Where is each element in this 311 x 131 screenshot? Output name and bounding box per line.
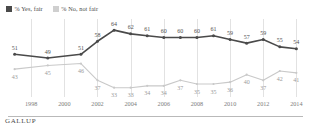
- legend-swatch-yes-fair: [6, 6, 12, 12]
- x-tick-2000: 2000: [58, 100, 70, 107]
- data-point: [295, 47, 298, 50]
- data-point: [195, 36, 198, 39]
- value-label: 58: [94, 32, 100, 38]
- value-label: 60: [161, 28, 167, 34]
- x-tick-2008: 2008: [191, 100, 203, 107]
- data-point: [146, 34, 149, 37]
- value-label: 36: [227, 87, 233, 93]
- gallup-line-chart: % Yes, fair % No, not fair 5149515864626…: [0, 0, 311, 131]
- x-tick-2006: 2006: [158, 100, 170, 107]
- data-point: [262, 79, 264, 81]
- legend-label-yes-fair: % Yes, fair: [15, 5, 43, 12]
- data-point: [96, 40, 99, 43]
- value-label: 37: [260, 85, 266, 91]
- value-label: 57: [244, 34, 250, 40]
- data-point: [79, 53, 82, 56]
- data-point: [163, 85, 165, 87]
- data-point: [196, 83, 198, 85]
- value-label: 34: [144, 90, 150, 96]
- data-point: [47, 64, 49, 66]
- value-label: 37: [177, 85, 183, 91]
- legend-label-no-not-fair: % No, not fair: [61, 5, 98, 12]
- data-point: [262, 38, 265, 41]
- legend-swatch-no-not-fair: [53, 6, 59, 12]
- x-tick-1998: 1998: [25, 100, 37, 107]
- value-label: 60: [194, 28, 200, 34]
- value-label: 51: [78, 45, 84, 51]
- value-label: 61: [144, 26, 150, 32]
- legend-item-no-not-fair: % No, not fair: [53, 5, 98, 12]
- x-axis-line: [8, 116, 303, 117]
- data-point: [212, 83, 214, 85]
- x-tick-2002: 2002: [91, 100, 103, 107]
- x-tick-2014: 2014: [290, 100, 302, 107]
- data-point: [295, 72, 297, 74]
- data-point: [278, 45, 281, 48]
- data-point: [14, 68, 16, 70]
- data-point: [96, 79, 98, 81]
- series-line-no-not-fair: [15, 64, 297, 88]
- value-label: 46: [78, 68, 84, 74]
- data-point: [80, 62, 82, 64]
- plot-area: 5149515864626160606061595759555443454637…: [4, 19, 307, 97]
- series-line-yes-fair: [15, 30, 297, 58]
- value-label: 40: [244, 79, 250, 85]
- data-point: [162, 36, 165, 39]
- value-label: 49: [45, 49, 51, 55]
- data-point: [113, 87, 115, 89]
- data-point: [129, 32, 132, 35]
- value-label: 33: [111, 92, 117, 98]
- data-point: [46, 57, 49, 60]
- value-label: 35: [194, 89, 200, 95]
- data-point: [130, 87, 132, 89]
- data-point: [113, 29, 116, 32]
- data-point: [279, 70, 281, 72]
- data-point: [212, 34, 215, 37]
- value-label: 59: [260, 30, 266, 36]
- value-label: 37: [94, 85, 100, 91]
- x-axis-ticks: 199820002002200420062008201020122014: [4, 100, 307, 114]
- data-point: [179, 36, 182, 39]
- data-point: [146, 85, 148, 87]
- value-label: 45: [45, 70, 51, 76]
- data-point: [229, 81, 231, 83]
- data-point: [245, 42, 248, 45]
- value-label: 59: [227, 30, 233, 36]
- x-tick-2010: 2010: [224, 100, 236, 107]
- value-label: 35: [211, 89, 217, 95]
- value-label: 60: [177, 28, 183, 34]
- data-point: [246, 74, 248, 76]
- x-tick-2004: 2004: [124, 100, 136, 107]
- value-label: 43: [12, 74, 18, 80]
- data-point: [13, 53, 16, 56]
- value-label: 42: [277, 76, 283, 82]
- value-label: 62: [128, 24, 134, 30]
- value-label: 51: [12, 45, 18, 51]
- value-label: 33: [128, 92, 134, 98]
- gallup-brand: GALLUP: [5, 117, 36, 125]
- value-label: 55: [277, 37, 283, 43]
- chart-legend: % Yes, fair % No, not fair: [6, 5, 98, 12]
- data-point: [179, 79, 181, 81]
- x-tick-2012: 2012: [257, 100, 269, 107]
- value-label: 34: [161, 90, 167, 96]
- value-label: 54: [293, 39, 299, 45]
- legend-item-yes-fair: % Yes, fair: [6, 5, 43, 12]
- value-label: 61: [211, 26, 217, 32]
- value-label: 41: [293, 77, 299, 83]
- value-label: 64: [111, 21, 117, 27]
- data-point: [229, 38, 232, 41]
